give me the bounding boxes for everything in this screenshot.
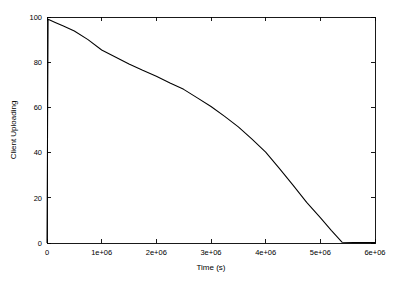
x-tick-label: 4e+06: [255, 248, 276, 257]
chart-background: [0, 0, 394, 285]
chart-figure: 01e+062e+063e+064e+065e+066e+06 02040608…: [0, 0, 394, 285]
y-tick-label: 80: [34, 58, 42, 67]
line-chart: 01e+062e+063e+064e+065e+066e+06 02040608…: [0, 0, 394, 285]
y-tick-label: 40: [34, 148, 42, 157]
x-tick-label: 2e+06: [146, 248, 167, 257]
x-tick-label: 0: [45, 248, 49, 257]
x-axis-title: Time (s): [196, 263, 225, 272]
x-tick-label: 1e+06: [91, 248, 112, 257]
x-tick-label: 5e+06: [310, 248, 331, 257]
y-tick-label: 20: [34, 194, 42, 203]
y-tick-label: 0: [38, 239, 42, 248]
y-tick-label: 100: [29, 13, 42, 22]
y-tick-label: 60: [34, 103, 42, 112]
x-tick-label: 3e+06: [200, 248, 221, 257]
x-tick-label: 6e+06: [364, 248, 385, 257]
y-axis-title: Client Uploading: [9, 101, 18, 160]
